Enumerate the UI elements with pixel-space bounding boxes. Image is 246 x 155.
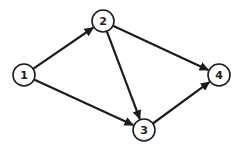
edge-1-3 (34, 80, 133, 125)
graph-diagram: 1234 (0, 0, 246, 155)
edge-2-4 (113, 26, 208, 70)
graph-svg: 1234 (0, 0, 246, 155)
edges-layer (33, 26, 209, 125)
node-label-3: 3 (140, 124, 148, 137)
edge-2-3 (107, 31, 140, 118)
node-label-4: 4 (215, 69, 223, 82)
node-4: 4 (208, 64, 230, 86)
edge-3-4 (153, 82, 209, 123)
edge-1-2 (33, 28, 93, 69)
node-1: 1 (13, 64, 35, 86)
node-label-2: 2 (99, 15, 107, 28)
node-2: 2 (92, 10, 114, 32)
node-3: 3 (133, 119, 155, 141)
node-label-1: 1 (20, 69, 28, 82)
